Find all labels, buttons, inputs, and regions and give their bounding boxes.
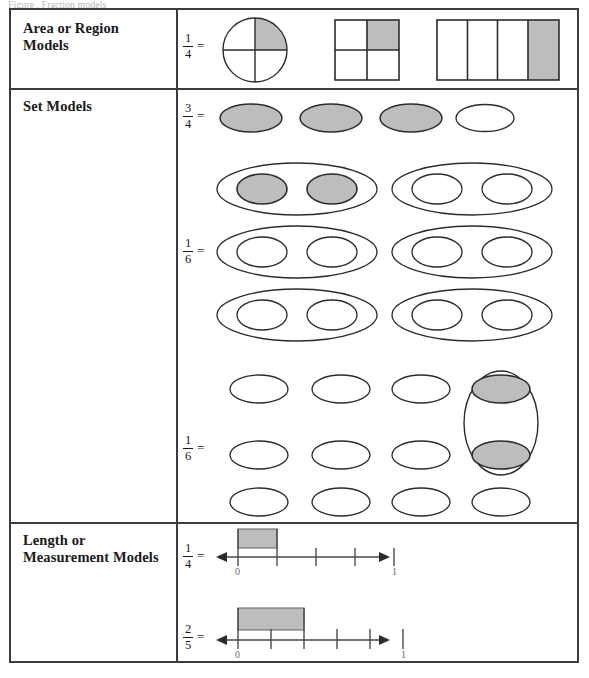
oval-shaded xyxy=(472,375,530,403)
shaded-length-bar xyxy=(238,608,304,630)
oval-unshaded xyxy=(482,237,532,267)
square-shaded-cell xyxy=(367,20,399,50)
oval-unshaded xyxy=(482,174,532,204)
row-label-set-models: Set Models xyxy=(23,98,168,115)
arrow-right xyxy=(379,552,390,562)
shaded-length-bar xyxy=(238,529,277,548)
fraction-two-fifths-line: 2 5 = xyxy=(183,623,204,651)
arrow-left xyxy=(216,552,227,562)
oval-shaded xyxy=(237,174,287,204)
arrow-left xyxy=(216,635,227,645)
oval-group-1 xyxy=(217,163,377,215)
fraction-glyph: 3 4 xyxy=(183,102,193,130)
oval-group-3 xyxy=(217,226,377,278)
area-model-rectangle-fourths xyxy=(436,19,560,81)
fraction-one-sixth-groups: 1 6 = xyxy=(183,237,204,265)
oval-shaded-2 xyxy=(300,104,362,132)
area-model-square-fourths xyxy=(334,19,400,81)
row-label-length-measurement-line1: Length or xyxy=(23,532,175,549)
oval-unshaded xyxy=(230,441,288,469)
equals-sign: = xyxy=(197,548,204,564)
fraction-glyph: 2 5 xyxy=(183,623,193,651)
fraction-glyph: 1 4 xyxy=(183,542,193,570)
rectangle-shaded-strip xyxy=(528,20,559,80)
oval-unshaded xyxy=(230,488,288,516)
oval-unshaded xyxy=(412,237,462,267)
fraction-models-table: Area or Region Models 1 4 = xyxy=(9,8,579,663)
area-model-circle-fourths xyxy=(216,14,294,86)
fraction-denominator: 4 xyxy=(184,117,192,131)
fraction-numerator: 3 xyxy=(184,102,192,116)
oval-unshaded xyxy=(392,375,450,403)
oval-shaded-1 xyxy=(220,104,282,132)
fraction-one-fourth-area: 1 4 = xyxy=(183,32,204,60)
fraction-denominator: 6 xyxy=(184,252,192,266)
set-model-oval-grid xyxy=(216,365,566,517)
oval-group-2 xyxy=(392,163,552,215)
equals-sign: = xyxy=(197,38,204,54)
fraction-one-fourth-line: 1 4 = xyxy=(183,542,204,570)
oval-unshaded xyxy=(482,300,532,330)
fraction-denominator: 5 xyxy=(184,638,192,652)
fraction-glyph: 1 6 xyxy=(183,237,193,265)
oval-shaded xyxy=(307,174,357,204)
fraction-numerator: 2 xyxy=(184,623,192,637)
equals-sign: = xyxy=(197,243,204,259)
figure-caption-partial: Figure . Fraction models xyxy=(8,0,308,8)
fraction-numerator: 1 xyxy=(184,434,192,448)
axis-label-one: 1 xyxy=(392,566,397,577)
oval-group-4 xyxy=(392,226,552,278)
fraction-glyph: 1 6 xyxy=(183,434,193,462)
row-label-area-region-line1: Area or Region xyxy=(23,20,168,37)
fraction-three-fourths-set: 3 4 = xyxy=(183,102,204,130)
row-label-area-region: Area or Region Models xyxy=(23,20,168,54)
oval-unshaded xyxy=(472,488,530,516)
oval-unshaded xyxy=(392,488,450,516)
number-line-fifths-labels: 0 1 xyxy=(214,649,434,665)
equals-sign: = xyxy=(197,629,204,645)
oval-unshaded xyxy=(312,441,370,469)
figure-page: Figure . Fraction models Area or Region … xyxy=(0,0,589,678)
fraction-denominator: 4 xyxy=(184,47,192,61)
oval-unshaded xyxy=(237,300,287,330)
fraction-glyph: 1 4 xyxy=(183,32,193,60)
row-label-area-region-line2: Models xyxy=(23,37,168,54)
axis-label-zero: 0 xyxy=(235,566,240,577)
oval-unshaded xyxy=(230,375,288,403)
fraction-numerator: 1 xyxy=(184,542,192,556)
oval-shaded-3 xyxy=(380,104,442,132)
oval-group-6 xyxy=(392,289,552,341)
oval-unshaded xyxy=(237,237,287,267)
axis-label-one: 1 xyxy=(401,649,406,660)
table-row-divider-1 xyxy=(11,88,577,90)
oval-unshaded xyxy=(312,488,370,516)
oval-unshaded xyxy=(307,300,357,330)
row-label-length-measurement: Length or Measurement Models xyxy=(23,532,175,566)
fraction-one-sixth-grid: 1 6 = xyxy=(183,434,204,462)
set-model-four-ovals xyxy=(218,100,518,136)
oval-unshaded xyxy=(392,441,450,469)
row-label-length-measurement-line2: Measurement Models xyxy=(23,549,175,566)
fraction-numerator: 1 xyxy=(184,237,192,251)
oval-unshaded-4 xyxy=(456,105,514,132)
oval-unshaded xyxy=(307,237,357,267)
fraction-denominator: 6 xyxy=(184,449,192,463)
oval-group-5 xyxy=(217,289,377,341)
fraction-denominator: 4 xyxy=(184,557,192,571)
oval-unshaded xyxy=(412,174,462,204)
oval-shaded xyxy=(472,441,530,469)
set-model-grouped-ovals xyxy=(216,162,568,342)
axis-label-zero: 0 xyxy=(235,649,240,660)
number-line-fourths-labels: 0 1 xyxy=(214,566,434,582)
oval-unshaded xyxy=(312,375,370,403)
fraction-numerator: 1 xyxy=(184,32,192,46)
equals-sign: = xyxy=(197,440,204,456)
row-label-set-models-line1: Set Models xyxy=(23,98,168,115)
equals-sign: = xyxy=(197,108,204,124)
table-column-divider xyxy=(176,10,178,661)
arrow-right xyxy=(379,635,390,645)
oval-unshaded xyxy=(412,300,462,330)
